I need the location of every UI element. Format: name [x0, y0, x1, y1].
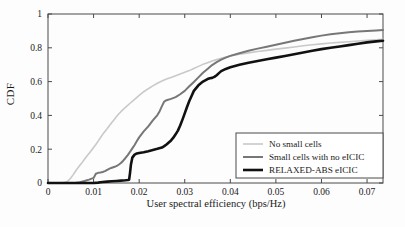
y-tick-label: 0.2: [30, 145, 42, 155]
y-tick-label: 0.4: [30, 111, 42, 121]
x-tick-label: 0.05: [268, 187, 285, 197]
x-tick-label: 0.04: [222, 187, 239, 197]
x-tick-label: 0: [46, 187, 51, 197]
y-tick-label: 1: [37, 9, 42, 19]
plot-area: 00.010.020.030.040.050.060.0700.20.40.60…: [0, 0, 405, 227]
y-tick-label: 0.8: [30, 43, 42, 53]
legend-label-1: Small cells with no eICIC: [269, 152, 364, 162]
x-tick-label: 0.06: [313, 187, 330, 197]
legend-label-2: RELAXED-ABS eICIC: [269, 165, 358, 175]
cdf-chart-figure: CDF User spectral efficiency (bps/Hz) 00…: [0, 0, 405, 227]
x-tick-label: 0.01: [85, 187, 102, 197]
x-tick-label: 0.03: [176, 187, 193, 197]
x-tick-label: 0.07: [359, 187, 376, 197]
y-tick-label: 0.6: [30, 77, 42, 87]
y-tick-label: 0: [37, 178, 42, 188]
x-tick-label: 0.02: [131, 187, 148, 197]
legend-label-0: No small cells: [269, 139, 322, 149]
